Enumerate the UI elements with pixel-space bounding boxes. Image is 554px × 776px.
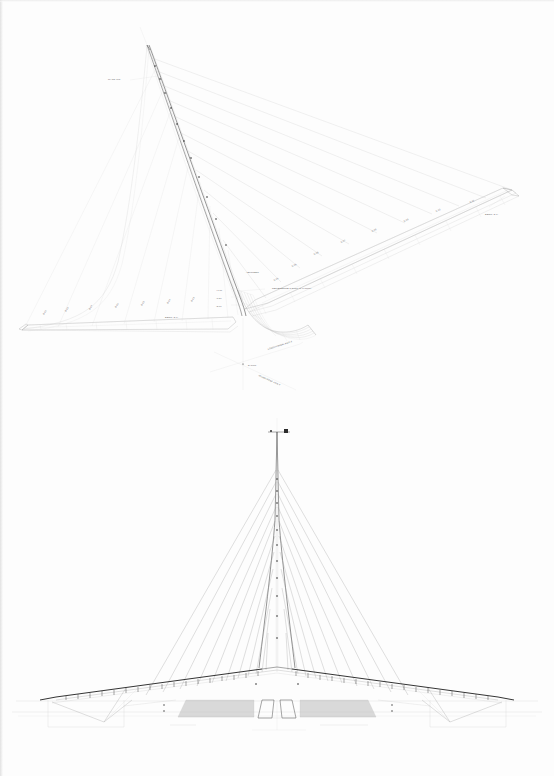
- cable-tag: B-05: [140, 300, 145, 306]
- sheet-edge-left: [0, 0, 3, 776]
- axo-callout-axis-y: TRANSVERSE AXIS Y: [258, 374, 281, 386]
- base-dim: -3.00: [216, 305, 222, 307]
- cable-tag: C-04: [273, 277, 279, 281]
- axo-callout-deck-front: DECK C.L.: [165, 316, 179, 319]
- drawing-canvas: MAST TIP DECK C.L. DECK C.L. REFERENCE P…: [0, 0, 554, 776]
- axo-back-cable-tags: C-11 C-10 C-09 C-08 C-07 C-06 C-05 C-04: [273, 199, 475, 281]
- axo-coordinate-axes: [210, 318, 303, 390]
- cable-tag: B-03: [190, 296, 195, 302]
- cable-tag: B-08: [64, 306, 69, 312]
- cable-tag: C-10: [435, 208, 441, 212]
- cable-tag: B-09: [42, 309, 47, 315]
- axo-abutment: [238, 290, 316, 341]
- cable-tag: B-06: [114, 302, 119, 308]
- cable-tag: B-04: [166, 298, 171, 304]
- elev-balustrade-left: [66, 671, 258, 700]
- cable-tag: C-05: [291, 263, 297, 267]
- axo-sail-curve: [24, 46, 149, 331]
- cable-tag: C-09: [403, 218, 409, 222]
- axo-callout-axis-x: LONGITUDINAL AXIS X: [267, 340, 292, 350]
- elev-substructure: [12, 683, 542, 730]
- base-dim: +0.00: [216, 289, 223, 291]
- elev-deck: [40, 667, 514, 703]
- axo-mast: [140, 27, 246, 316]
- axo-callout-abutment: ABUTMENT: [246, 271, 259, 273]
- elev-balustrade-right: [296, 671, 488, 700]
- front-elevation-view: [12, 418, 542, 730]
- elev-mast-finial: [268, 418, 290, 433]
- cable-tag: C-08: [371, 228, 377, 232]
- axonometric-view: MAST TIP DECK C.L. DECK C.L. REFERENCE P…: [19, 27, 519, 390]
- cable-tag: C-11: [469, 199, 475, 203]
- axo-front-cable-tags: B-09 B-08 B-07 B-06 B-05 B-04 B-03: [42, 296, 195, 315]
- elev-mast: [259, 432, 295, 672]
- sheet-edge-top: [0, 0, 554, 2]
- axo-callout-mast-tip: MAST TIP: [108, 78, 121, 81]
- axo-base-dims: +0.00 -1.50 -3.00: [216, 289, 243, 307]
- elev-stays-right: [278, 470, 408, 695]
- cable-tag: C-06: [313, 251, 319, 255]
- axo-fore-stays: [24, 68, 238, 329]
- cable-tag: B-07: [88, 304, 93, 310]
- base-dim: -1.50: [216, 297, 222, 299]
- axo-callout-deck-back: DECK C.L.: [485, 213, 499, 216]
- axo-leader-lines: [130, 76, 505, 291]
- axo-back-stays: [152, 58, 512, 298]
- elev-stays-left: [146, 470, 276, 695]
- axo-callout-ref-note: REFERENCE POINT (0,0,0MM): [272, 287, 312, 290]
- axo-callout-datum: DATUM: [248, 364, 256, 366]
- axo-back-deck: [245, 188, 519, 316]
- axo-front-deck: [19, 317, 238, 332]
- drawing-sheet: MAST TIP DECK C.L. DECK C.L. REFERENCE P…: [0, 0, 554, 776]
